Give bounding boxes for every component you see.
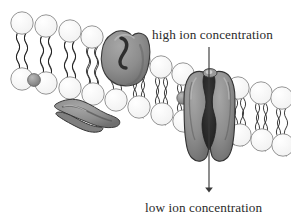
lipid-head (251, 129, 273, 151)
lower-leaflet-heads (11, 68, 291, 156)
lipid-head (271, 87, 291, 109)
high-concentration-label: high ion concentration (152, 27, 273, 42)
integral-protein (101, 31, 150, 86)
lipid-head (151, 103, 173, 125)
lipid-head (272, 134, 291, 156)
lipid-head (59, 77, 81, 99)
lipid-head (105, 89, 127, 111)
low-concentration-label: low ion concentration (145, 200, 262, 215)
lipid-head (81, 26, 103, 48)
lipid-head (150, 56, 172, 78)
membrane-ion-channel-figure: high ion concentration low ion concentra… (0, 0, 291, 221)
lipid-head (11, 12, 33, 34)
lipid-head (35, 15, 57, 37)
lipid-head (59, 20, 81, 42)
lipid-head (250, 82, 272, 104)
lipid-head (128, 96, 150, 118)
figure-canvas: high ion concentration low ion concentra… (0, 0, 291, 221)
lipid-bead-gray (28, 74, 41, 87)
